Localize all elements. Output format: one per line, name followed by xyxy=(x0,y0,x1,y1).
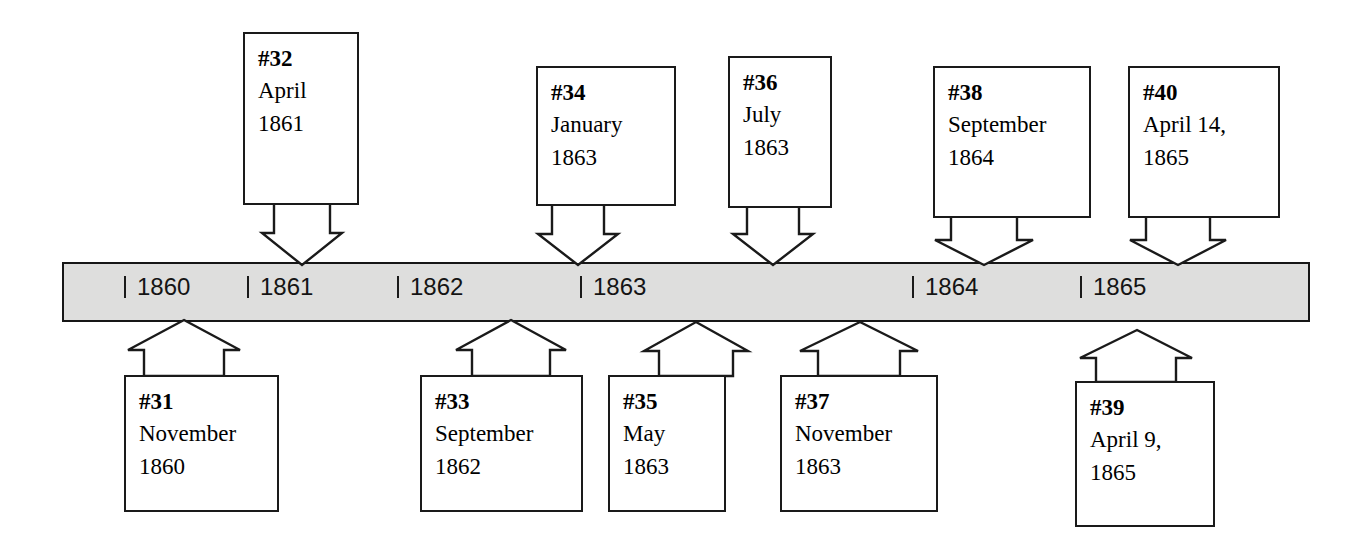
timeline-bar: 1860 1861 1862 1863 1864 1865 xyxy=(62,262,1310,322)
callout-box-32: #32 April 1861 xyxy=(243,32,359,205)
year-label-1863: 1863 xyxy=(593,272,646,302)
event-line-1: November xyxy=(139,417,277,450)
event-number: #35 xyxy=(623,386,724,417)
callout-box-35: #35 May 1863 xyxy=(608,375,726,512)
callout-arrow-up-37 xyxy=(800,322,924,376)
callout-arrow-up-31 xyxy=(128,320,248,376)
year-label-1862: 1862 xyxy=(410,272,463,302)
callout-arrow-down-38 xyxy=(935,216,1057,265)
event-line-1: September xyxy=(948,108,1089,141)
year-tick-1862 xyxy=(397,276,399,298)
event-line-2: 1865 xyxy=(1143,141,1278,174)
event-number: #33 xyxy=(435,386,581,417)
event-line-2: 1864 xyxy=(948,141,1089,174)
event-number: #34 xyxy=(551,77,674,108)
callout-arrow-up-35 xyxy=(644,322,760,376)
year-tick-1860 xyxy=(124,276,126,298)
event-line-1: April 14, xyxy=(1143,108,1278,141)
event-line-2: 1863 xyxy=(551,141,674,174)
year-label-1865: 1865 xyxy=(1093,272,1146,302)
callout-box-40: #40 April 14, 1865 xyxy=(1128,66,1280,218)
callout-arrow-down-32 xyxy=(262,203,342,265)
callout-box-31: #31 November 1860 xyxy=(124,375,279,512)
timeline-diagram: 1860 1861 1862 1863 1864 1865 #32 April … xyxy=(0,0,1361,553)
year-tick-1864 xyxy=(912,276,914,298)
callout-box-38: #38 September 1864 xyxy=(933,66,1091,218)
event-line-1: July xyxy=(743,98,830,131)
callout-box-36: #36 July 1863 xyxy=(728,56,832,208)
event-line-2: 1863 xyxy=(743,131,830,164)
event-line-2: 1861 xyxy=(258,107,357,140)
event-number: #36 xyxy=(743,67,830,98)
event-line-2: 1863 xyxy=(623,450,724,483)
callout-arrow-up-39 xyxy=(1080,330,1200,382)
event-line-1: May xyxy=(623,417,724,450)
event-line-2: 1865 xyxy=(1090,456,1213,489)
event-number: #40 xyxy=(1143,77,1278,108)
event-number: #37 xyxy=(795,386,936,417)
event-number: #31 xyxy=(139,386,277,417)
year-tick-1865 xyxy=(1080,276,1082,298)
year-label-1861: 1861 xyxy=(260,272,313,302)
callout-arrow-down-40 xyxy=(1130,216,1250,265)
year-label-1860: 1860 xyxy=(137,272,190,302)
event-line-2: 1863 xyxy=(795,450,936,483)
callout-arrow-up-33 xyxy=(456,320,576,376)
event-line-2: 1860 xyxy=(139,450,277,483)
event-number: #38 xyxy=(948,77,1089,108)
year-label-1864: 1864 xyxy=(925,272,978,302)
event-line-1: January xyxy=(551,108,674,141)
event-line-1: April 9, xyxy=(1090,423,1213,456)
callout-box-37: #37 November 1863 xyxy=(780,375,938,512)
event-line-1: September xyxy=(435,417,581,450)
event-line-1: November xyxy=(795,417,936,450)
callout-arrow-down-34 xyxy=(538,204,640,265)
event-line-1: April xyxy=(258,74,357,107)
year-tick-1861 xyxy=(247,276,249,298)
event-number: #32 xyxy=(258,43,357,74)
callout-box-39: #39 April 9, 1865 xyxy=(1075,381,1215,527)
callout-box-34: #34 January 1863 xyxy=(536,66,676,206)
event-line-2: 1862 xyxy=(435,450,581,483)
year-tick-1863 xyxy=(580,276,582,298)
callout-box-33: #33 September 1862 xyxy=(420,375,583,512)
event-number: #39 xyxy=(1090,392,1213,423)
callout-arrow-down-36 xyxy=(733,206,823,265)
